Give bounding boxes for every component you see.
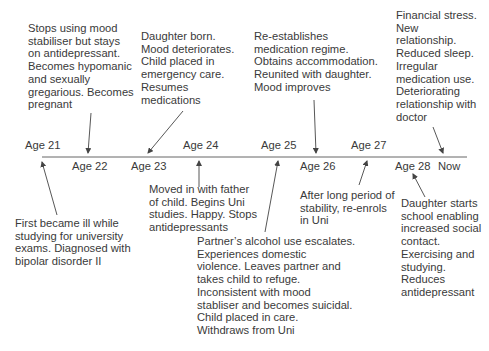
text-line: Mood improves [254,81,378,94]
arrow-age25 [265,161,278,232]
arrow-now [433,127,443,153]
text-line: Reduced sleep. [396,47,477,60]
text-line: studying for university [15,230,131,243]
text-line: Re-establishes [254,30,378,43]
text-line: Irregular [396,60,477,73]
age-label-age-23: Age 23 [131,160,166,172]
text-line: medication use. [396,73,477,86]
text-line: on antidepressant. [28,47,134,60]
text-line: medication regime. [254,43,378,56]
text-line: Child placed in [141,55,234,68]
event-age26-text: Re-establishesmedication regime.Obtains … [254,30,378,94]
event-age25-text: Partner’s alcohol use escalates.Experien… [197,235,355,337]
text-line: increased social [401,222,481,235]
arrow-age28 [413,174,425,197]
text-line: Mood deteriorates. [141,43,234,56]
text-line: pregnant [28,98,134,111]
text-line: studying. [401,261,481,274]
arrow-age26 [314,100,316,153]
arrow-age22 [88,113,91,153]
age-label-age-24: Age 24 [183,139,218,151]
age-label-age-27: Age 27 [351,139,386,151]
event-age21-text: First became ill whilestudying for unive… [15,217,131,268]
text-line: Resumes [141,81,234,94]
text-line: stability, re-enrols [300,202,395,215]
text-line: bipolar disorder II [15,255,131,268]
text-line: relationship with [396,98,477,111]
age-label-now: Now [438,160,460,172]
age-label-age-21: Age 21 [25,139,60,151]
arrow-age23 [148,111,183,153]
arrow-age21 [42,162,57,215]
text-line: studies. Happy. Stops [149,208,257,221]
event-age24-text: Moved in with fatherof child. Begins Uni… [149,183,257,234]
event-now-text: Financial stress.Newrelationship.Reduced… [396,9,477,123]
text-line: medications [141,94,234,107]
text-line: Becomes hypomanic [28,60,134,73]
text-line: doctor [396,111,477,124]
text-line: Daughter starts [401,197,481,210]
text-line: exams. Diagnosed with [15,242,131,255]
text-line: Reunited with daughter. [254,68,378,81]
text-line: Financial stress. [396,9,477,22]
text-line: contact. [401,235,481,248]
event-age22-text: Stops using moodstabiliser but stayson a… [28,22,134,111]
age-label-age-26: Age 26 [300,160,335,172]
text-line: Inconsistent with mood [197,286,355,299]
age-label-age-22: Age 22 [72,160,107,172]
text-line: in Uni [300,214,395,227]
text-line: Child placed in care. [197,311,355,324]
text-line: violence. Leaves partner and [197,260,355,273]
text-line: New [396,22,477,35]
text-line: emergency care. [141,68,234,81]
age-label-age-25: Age 25 [261,139,296,151]
text-line: relationship. [396,34,477,47]
text-line: After long period of [300,189,395,202]
event-age28-text: Daughter startsschool enablingincreased … [401,197,481,299]
text-line: Withdraws from Uni [197,324,355,337]
text-line: Moved in with father [149,183,257,196]
text-line: stabiliser but stays [28,35,134,48]
text-line: Stops using mood [28,22,134,35]
text-line: Deteriorating [396,85,477,98]
text-line: antidepressants [149,221,257,234]
text-line: Reduces [401,273,481,286]
text-line: Obtains accommodation. [254,55,378,68]
text-line: Daughter born. [141,30,234,43]
arrow-age27 [359,161,367,185]
event-age23-text: Daughter born.Mood deteriorates.Child pl… [141,30,234,106]
text-line: Exercising and [401,248,481,261]
text-line: and sexually [28,73,134,86]
text-line: of child. Begins Uni [149,196,257,209]
text-line: Experiences domestic [197,248,355,261]
text-line: school enabling [401,210,481,223]
age-label-age-28: Age 28 [395,160,430,172]
text-line: gregarious. Becomes [28,86,134,99]
event-age27-text: After long period ofstability, re-enrols… [300,189,395,227]
text-line: First became ill while [15,217,131,230]
text-line: Partner’s alcohol use escalates. [197,235,355,248]
text-line: stabliser and becomes suicidal. [197,299,355,312]
text-line: antidepressant [401,286,481,299]
text-line: takes child to refuge. [197,273,355,286]
